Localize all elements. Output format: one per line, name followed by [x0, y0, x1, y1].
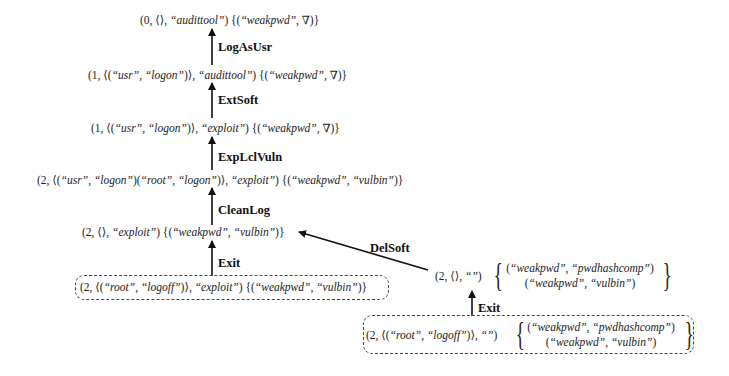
node-text: “usr”	[115, 122, 143, 134]
node-text: , ∇)}	[324, 69, 347, 81]
node-text: “vulbin”	[234, 226, 276, 238]
set-line-2: (“weakpwd”, “vulbin”)	[502, 276, 658, 290]
edge-label-cleanlog: CleanLog	[218, 203, 270, 217]
node-text: (1, ⟨(	[91, 122, 115, 134]
node-text: “usr”	[61, 174, 89, 186]
state-node-2: (1, ⟨(“usr”, “logon”)⟩, “exploit”) {(“we…	[91, 121, 340, 135]
node-text: “”	[481, 329, 494, 341]
edge-label-exit-right: Exit	[478, 301, 500, 315]
set-line-2: (“weakpwd”, “vulbin”)	[523, 335, 679, 349]
node-text: )⟩,	[187, 122, 201, 134]
node-text: “logoff”	[141, 281, 181, 293]
node-text: ) {(	[252, 69, 268, 81]
node-text: “usr”	[112, 69, 140, 81]
node-text: )⟩,	[184, 69, 198, 81]
node-text: “weakpwd”	[529, 277, 585, 289]
state-node-4: (2, ⟨⟩, “exploit”) {(“weakpwd”, “vulbin”…	[82, 225, 284, 239]
node-text: “weakpwd”	[550, 336, 606, 348]
node-text: “exploit”	[201, 122, 245, 134]
node-prefix: (2, ⟨(“root”, “logoff”)⟩, “”)	[366, 328, 497, 342]
node-text: , ∇)}	[317, 122, 340, 134]
node-text: “pwdhashcomp”	[592, 321, 671, 333]
node-text: “root”	[141, 174, 173, 186]
node-text: ) {(	[224, 14, 240, 26]
set-line-1: (“weakpwd”, “pwdhashcomp”)	[502, 261, 658, 275]
node-text: ) {(	[245, 122, 261, 134]
node-text: “weakpwd”	[255, 281, 311, 293]
node-text: )⟩,	[467, 329, 481, 341]
node-text: “weakpwd”	[531, 321, 587, 333]
node-text: )	[671, 321, 675, 333]
node-text: “weakpwd”	[510, 262, 566, 274]
node-text: (1, ⟨(	[88, 69, 112, 81]
node-text: )}	[275, 226, 284, 238]
close-brace: }	[663, 258, 672, 292]
node-text: “weakpwd”	[261, 122, 317, 134]
node-text: “pwdhashcomp”	[571, 262, 650, 274]
node-text: )}	[394, 174, 403, 186]
state-node-5: (2, ⟨(“root”, “logoff”)⟩, “exploit”) {(“…	[80, 280, 367, 294]
node-text: (2, ⟨(	[37, 174, 61, 186]
node-text: (0, ⟨⟩,	[140, 14, 170, 26]
node-text: “vulbin”	[590, 277, 632, 289]
node-text: “weakpwd”	[268, 69, 324, 81]
node-text: “vulbin”	[352, 174, 394, 186]
node-text: “exploit”	[231, 174, 275, 186]
edge-label-logasusr: LogAsUsr	[218, 40, 272, 54]
node-text: )	[650, 262, 654, 274]
state-node-3: (2, ⟨(“usr”, “logon”)(“root”, “logon”)⟩,…	[37, 173, 403, 187]
node-text: )⟩,	[181, 281, 195, 293]
node-text: “weakpwd”	[172, 226, 228, 238]
node-text: )	[652, 336, 656, 348]
node-text: “”	[465, 270, 478, 282]
node-text: )	[493, 329, 497, 341]
node-text: , ∇)}	[296, 14, 319, 26]
node-text: “audittool”	[170, 14, 224, 26]
node-text: )	[631, 277, 635, 289]
set-line-1: (“weakpwd”, “pwdhashcomp”)	[523, 320, 679, 334]
node-text: “logoff”	[427, 329, 467, 341]
node-text: (2, ⟨(	[80, 281, 104, 293]
edge-label-exit-left: Exit	[218, 256, 240, 270]
node-text: “exploit”	[195, 281, 239, 293]
node-text: “logon”	[148, 122, 187, 134]
node-text: (2, ⟨⟩,	[435, 270, 465, 282]
node-text: )	[478, 270, 482, 282]
edge-label-delsoft: DelSoft	[370, 241, 410, 255]
node-text: “root”	[390, 329, 422, 341]
node-text: “weakpwd”	[240, 14, 296, 26]
node-text: ) {(	[239, 281, 255, 293]
node-text: “exploit”	[112, 226, 156, 238]
node-prefix: (2, ⟨⟩, “”)	[435, 269, 482, 283]
node-text: “vulbin”	[611, 336, 653, 348]
node-text: “logon”	[94, 174, 133, 186]
node-text: “logon”	[145, 69, 184, 81]
state-node-1: (1, ⟨(“usr”, “logon”)⟩, “audittool”) {(“…	[88, 68, 347, 82]
node-text: “weakpwd”	[291, 174, 347, 186]
node-text: )⟩,	[217, 174, 231, 186]
node-text: “root”	[104, 281, 136, 293]
node-text: ) {(	[156, 226, 172, 238]
edge-label-extsoft: ExtSoft	[218, 93, 258, 107]
node-text: )(	[133, 174, 141, 186]
node-text: ) {(	[275, 174, 291, 186]
close-brace: }	[685, 317, 694, 351]
node-text: (2, ⟨(	[366, 329, 390, 341]
node-text: “audittool”	[198, 69, 252, 81]
node-text: “logon”	[178, 174, 217, 186]
node-text: )}	[358, 281, 367, 293]
node-text: “vulbin”	[316, 281, 358, 293]
state-node-0: (0, ⟨⟩, “audittool”) {(“weakpwd”, ∇)}	[140, 13, 319, 27]
edge-label-explclvuln: ExpLclVuln	[218, 150, 282, 164]
node-text: (2, ⟨⟩,	[82, 226, 112, 238]
